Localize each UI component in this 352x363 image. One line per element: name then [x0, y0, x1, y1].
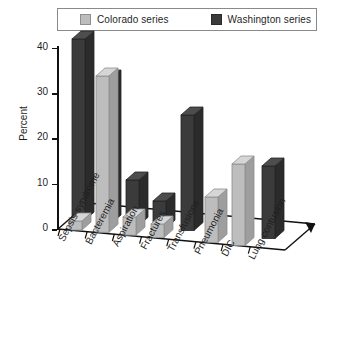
x-axis-ticks	[0, 0, 352, 363]
bar-chart: Colorado series Washington series Percen…	[0, 0, 352, 363]
plot-area: Percent 403020100 Sepsis syndromeBactere…	[0, 0, 352, 363]
